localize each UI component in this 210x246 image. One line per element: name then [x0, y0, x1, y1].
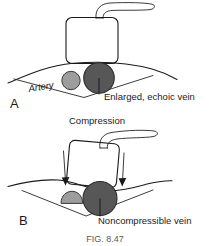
- panel-letter-a: A: [10, 96, 19, 111]
- compression-label-b: Compression: [69, 115, 125, 126]
- artery-label-a: Artery: [27, 79, 56, 94]
- compression-arrow-right-b: [119, 153, 127, 187]
- transducer-body-a: [66, 18, 118, 64]
- transducer-body-b: [66, 140, 120, 188]
- ultrasound-compression-diagram: Artery Enlarged, echoic vein A Compressi…: [0, 0, 210, 246]
- panel-b: Compression: [8, 115, 191, 228]
- panel-a: Artery Enlarged, echoic vein A: [8, 3, 195, 111]
- figure-container: Artery Enlarged, echoic vein A Compressi…: [0, 0, 210, 246]
- vein-label-a: Enlarged, echoic vein: [104, 91, 195, 102]
- transducer-cable-b: [100, 130, 158, 148]
- artery-vessel-b: [61, 191, 83, 203]
- transducer-cable-a: [96, 3, 155, 18]
- vein-label-b: Noncompressible vein: [98, 215, 191, 226]
- panel-letter-b: B: [19, 213, 28, 228]
- figure-caption: FIG. 8.47: [86, 234, 124, 244]
- artery-vessel-a: [62, 71, 80, 89]
